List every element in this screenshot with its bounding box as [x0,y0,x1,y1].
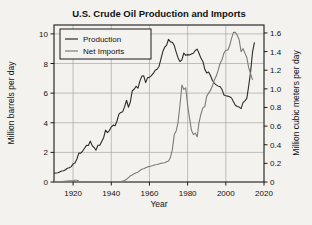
y-tick-labels-right: 00.20.40.60.81.01.21.41.6 [270,29,282,187]
y-tick-label-right: 0 [270,178,275,187]
chart-title: U.S. Crude Oil Production and Imports [72,8,246,19]
y-tick-label-left: 8 [44,60,49,69]
chart-legend[interactable]: Production Net Imports [60,29,151,59]
x-tick-label: 1980 [179,189,197,198]
y-tick-label-right: 1.2 [270,66,282,75]
y-tick-label-right: 0.8 [270,103,282,112]
legend-label-production: Production [83,35,121,44]
y-tick-label-right: 1.4 [270,48,282,57]
y-tick-label-left: 0 [44,178,49,187]
x-tick-label: 2000 [217,189,235,198]
y-axis-label-right: Million cubic meters per day [291,50,301,156]
y-tick-label-left: 4 [44,119,49,128]
y-axis-label-left: Million barrels per day [6,61,16,145]
x-axis-label: Year [150,199,167,209]
y-tick-label-left: 2 [44,148,49,157]
y-tick-label-left: 10 [39,30,48,39]
legend-label-net-imports: Net Imports [83,47,124,56]
x-tick-label: 1920 [64,189,82,198]
x-tick-label: 2020 [255,189,273,198]
x-tick-label: 1960 [141,189,159,198]
y-tick-label-right: 0.6 [270,122,282,131]
chart-figure: U.S. Crude Oil Production and Imports 19… [0,0,312,225]
y-tick-label-right: 0.2 [270,159,282,168]
x-tick-label: 1940 [102,189,120,198]
y-tick-label-left: 6 [44,89,49,98]
y-tick-label-right: 1.6 [270,29,282,38]
crude-oil-line-chart: U.S. Crude Oil Production and Imports 19… [0,0,312,225]
y-tick-label-right: 1.0 [270,85,282,94]
y-tick-label-right: 0.4 [270,141,282,150]
